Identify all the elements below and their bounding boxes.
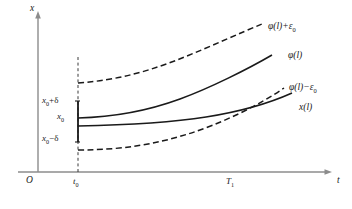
curve-label-phi-minus-epsilon: φ(l)−ε0 bbox=[289, 83, 317, 94]
x-tick-t0: t0 bbox=[73, 177, 79, 188]
curve-phi-minus-epsilon bbox=[78, 88, 284, 150]
y-tick-x0-sub: 0 bbox=[61, 117, 64, 123]
x-axis-arrowhead bbox=[325, 169, 333, 175]
y-axis-arrowhead bbox=[35, 11, 41, 19]
curve-label-phi-plus-epsilon-sub: 0 bbox=[292, 26, 295, 33]
curve-phi bbox=[78, 55, 272, 118]
y-tick-x0-plus-delta: x0+δ bbox=[42, 96, 58, 107]
y-tick-x0-minus-delta-suffix: −δ bbox=[49, 133, 58, 143]
curve-label-x-of-l: x(l) bbox=[299, 103, 312, 114]
x-axis-label: t bbox=[337, 176, 340, 186]
curve-label-phi: φ(l) bbox=[288, 51, 302, 62]
curve-label-phi-text: φ(l) bbox=[288, 50, 302, 60]
y-axis-label: x bbox=[30, 4, 34, 14]
curve-label-phi-minus-epsilon-text: φ(l)−ε bbox=[289, 82, 313, 92]
y-tick-x0-plus-delta-suffix: +δ bbox=[49, 95, 58, 105]
y-tick-x0-minus-delta: x0−δ bbox=[42, 134, 58, 145]
curve-label-phi-plus-epsilon: φ(l)+ε0 bbox=[268, 22, 296, 33]
stability-diagram: x t O t0 T1 x0+δ x0 x0−δ φ(l)+ε0 φ(l) φ(… bbox=[0, 0, 352, 209]
y-tick-x0: x0 bbox=[57, 112, 64, 123]
x-tick-T1: T1 bbox=[226, 177, 234, 188]
origin-label: O bbox=[26, 176, 33, 186]
axes-group bbox=[18, 11, 332, 175]
x-tick-T1-sub: 1 bbox=[231, 182, 234, 188]
x-tick-t0-sub: 0 bbox=[76, 182, 79, 188]
curve-label-phi-minus-epsilon-sub: 0 bbox=[313, 87, 316, 94]
curve-label-phi-plus-epsilon-text: φ(l)+ε bbox=[268, 21, 292, 31]
curve-phi-plus-epsilon bbox=[78, 24, 262, 83]
curve-label-x-of-l-text: x(l) bbox=[299, 102, 312, 112]
